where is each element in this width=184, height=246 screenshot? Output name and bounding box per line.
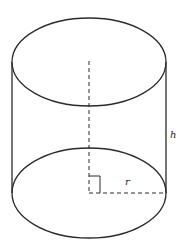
cylinder-diagram: h r — [0, 0, 184, 246]
right-angle-marker — [89, 176, 100, 193]
radius-label: r — [125, 176, 131, 187]
height-label: h — [170, 129, 176, 140]
